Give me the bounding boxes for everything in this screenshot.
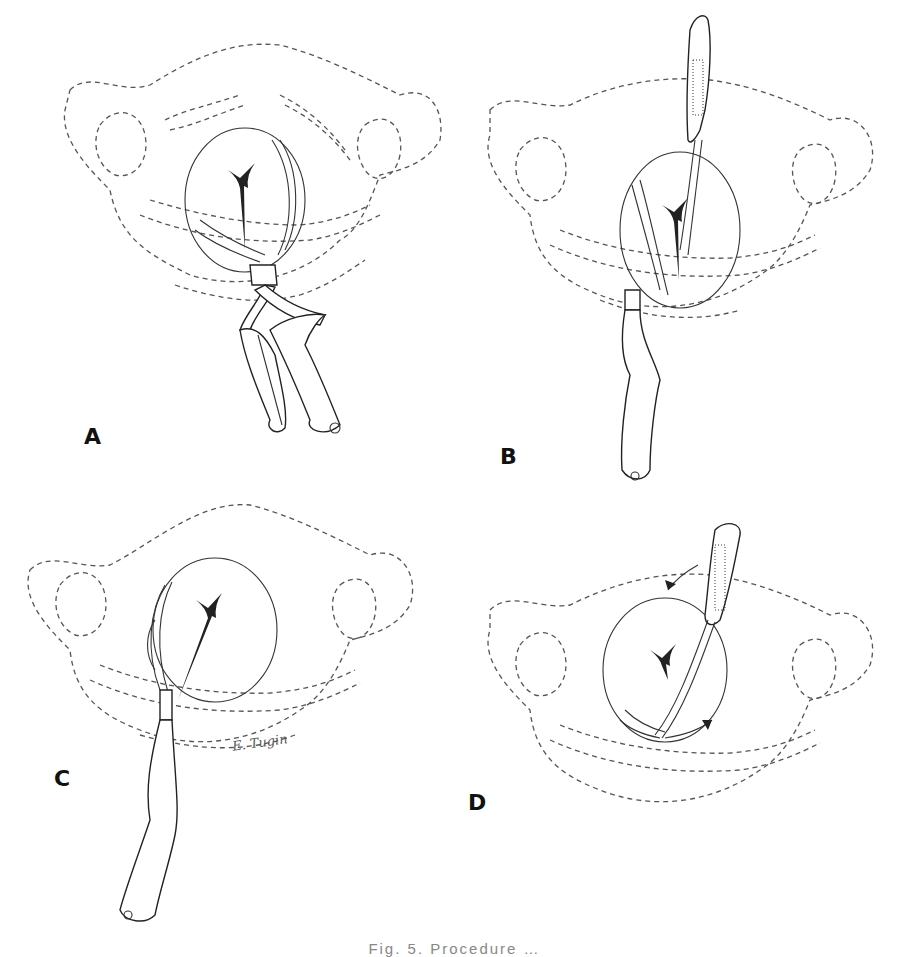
panel-c: C E. Tugin [0, 490, 450, 940]
pelvis-forceps-illustration-d [450, 520, 909, 940]
panel-label-a: A [84, 424, 101, 449]
panel-d: D [450, 520, 909, 940]
panel-b: B [450, 0, 909, 500]
panel-label-d: D [468, 790, 486, 815]
pelvis-forceps-illustration-a [0, 0, 450, 470]
pelvis-forceps-illustration-b [450, 0, 909, 500]
pelvis-forceps-illustration-c [0, 490, 450, 940]
panel-a: A [0, 0, 450, 470]
panel-label-b: B [500, 444, 517, 469]
figure-caption: Fig. 5. Procedure … [0, 940, 909, 957]
panel-label-c: C [54, 766, 70, 791]
